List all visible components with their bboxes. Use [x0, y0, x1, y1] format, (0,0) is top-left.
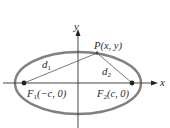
d1-label: d1 [42, 58, 52, 72]
point-p-label: P(x, y) [93, 40, 122, 52]
d1-line [24, 53, 97, 83]
y-axis-label: y [73, 20, 79, 32]
x-axis-label: x [159, 76, 165, 88]
point-p-dot [96, 52, 99, 55]
ellipse-diagram: y x P(x, y) d1 d2 F1(−c, 0) F2(c, 0) [0, 0, 170, 128]
focus-f1-dot [22, 81, 27, 86]
d2-label: d2 [102, 65, 112, 79]
focus-f2-dot [130, 81, 135, 86]
focus-f1-label: F1(−c, 0) [26, 88, 67, 101]
x-axis-arrow-icon [151, 81, 158, 86]
focus-f2-label: F2(c, 0) [96, 88, 130, 101]
